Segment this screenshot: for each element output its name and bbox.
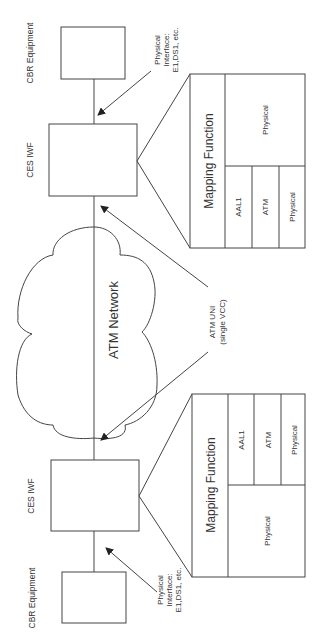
mapping-function-title-bottom: Mapping Function xyxy=(204,437,218,532)
layer-physical-cbr-bottom: Physical xyxy=(263,516,272,546)
ces-iwf-diagram: CBR Equipment CES IWF Physical Interface… xyxy=(0,0,323,644)
svg-text:E1,DS1, etc.: E1,DS1, etc. xyxy=(171,28,180,73)
svg-text:Physical: Physical xyxy=(156,575,165,605)
layer-physical-atm-top: Physical xyxy=(288,192,297,222)
atm-network-label: ATM Network xyxy=(106,281,121,359)
cbr-equipment-label-top: CBR Equipment xyxy=(25,22,35,84)
mapping-function-block-top: Mapping Function Physical AAL1 ATM Physi… xyxy=(190,74,305,248)
cbr-equipment-label-bottom: CBR Equipment xyxy=(27,567,37,629)
svg-text:ATM UNI: ATM UNI xyxy=(208,306,217,338)
ces-iwf-box-top xyxy=(49,124,137,196)
cbr-equipment-box-bottom xyxy=(62,572,126,623)
layer-aal1-bottom: AAL1 xyxy=(237,430,246,450)
cbr-equipment-box-top xyxy=(61,27,125,79)
atm-network-cloud: ATM Network xyxy=(17,227,158,439)
svg-text:Physical: Physical xyxy=(153,35,162,65)
layer-physical-atm-bottom: Physical xyxy=(290,425,299,455)
ces-iwf-label-top: CES IWF xyxy=(25,142,35,177)
callout-line-bottom-a xyxy=(139,394,192,496)
ces-iwf-box-bottom xyxy=(51,460,139,531)
callout-line-top-a xyxy=(137,74,190,161)
mapping-function-title-top: Mapping Function xyxy=(202,113,216,208)
svg-text:Interface:: Interface: xyxy=(162,33,171,66)
svg-text:(single VCC): (single VCC) xyxy=(218,299,227,345)
layer-aal1-top: AAL1 xyxy=(234,197,243,217)
layer-atm-top: ATM xyxy=(261,199,270,216)
svg-text:E1,DS1, etc.: E1,DS1, etc. xyxy=(174,568,183,613)
mapping-function-block-bottom: Mapping Function AAL1 ATM Physical Physi… xyxy=(192,394,305,577)
layer-atm-bottom: ATM xyxy=(264,432,273,449)
ces-iwf-label-bottom: CES IWF xyxy=(26,478,36,513)
callout-line-top-b xyxy=(137,161,190,248)
callout-line-bottom-b xyxy=(139,496,192,577)
svg-text:Interface:: Interface: xyxy=(165,573,174,606)
layer-physical-cbr-top: Physical xyxy=(261,105,270,135)
